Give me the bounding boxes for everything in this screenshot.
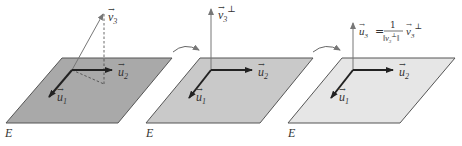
v3-perp-arrow-accent: → [218, 3, 225, 12]
plane-label-3: E [287, 126, 296, 140]
u1-arrow-accent: → [196, 85, 203, 94]
u2-arrow-accent: → [399, 60, 406, 69]
v3-rhs-arrow-accent: → [406, 21, 412, 29]
u2-arrow-accent: → [118, 60, 125, 69]
panel-2: v3⊥ → u2 → u1 → E [145, 3, 313, 140]
fraction-denominator: ‖v3⊥‖ [383, 32, 399, 44]
panel-1: v3 → u2 → u1 → E [4, 5, 172, 140]
u1-arrow-accent: → [339, 85, 346, 94]
u3-arrow-accent: → [359, 21, 365, 29]
plane-e-1 [6, 58, 172, 123]
u3-formula: u3 → = 1 ‖v3⊥‖ v3⊥ → [359, 20, 422, 44]
v3-arrow-accent: → [108, 5, 115, 14]
orthonormalization-diagram: v3 → u2 → u1 → E v3⊥ → u2 → u1 → E u3 → … [0, 0, 462, 146]
plane-label-2: E [145, 126, 154, 140]
transition-arrow-2 [313, 46, 340, 52]
plane-label-1: E [4, 126, 13, 140]
transition-arrow-1 [173, 46, 199, 52]
u1-arrow-accent: → [57, 85, 64, 94]
panel-3: u3 → = 1 ‖v3⊥‖ v3⊥ → u2 → u1 → E [287, 20, 455, 140]
plane-e-2 [146, 58, 313, 123]
plane-e-3 [288, 58, 455, 123]
fraction-numerator: 1 [390, 20, 396, 30]
u2-arrow-accent: → [258, 60, 265, 69]
